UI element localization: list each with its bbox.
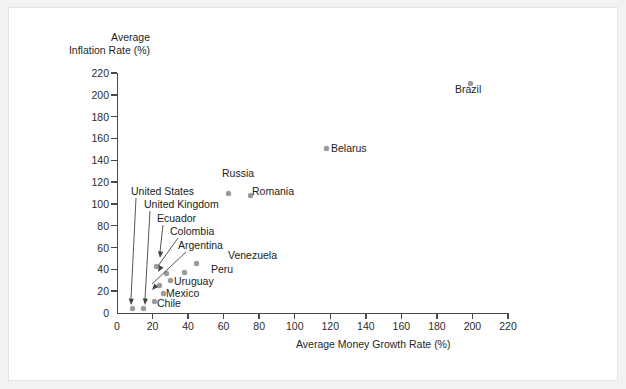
data-point[interactable] (194, 261, 199, 266)
leader-arrowhead (129, 298, 134, 305)
y-tick-mark (111, 94, 117, 95)
x-tick-mark (330, 313, 331, 319)
point-label: Russia (222, 168, 254, 179)
y-tick-label: 60 (77, 243, 109, 253)
x-tick-mark (436, 313, 437, 319)
y-tick-label: 100 (77, 199, 109, 209)
x-tick-mark (472, 313, 473, 319)
x-tick-label: 100 (278, 320, 312, 332)
y-axis-title-line1: Average (60, 31, 150, 44)
y-tick-label: 20 (77, 286, 109, 296)
y-tick-mark (111, 160, 117, 161)
data-point[interactable] (130, 306, 135, 311)
leader-arrowhead (158, 251, 163, 258)
y-tick-label: 120 (77, 177, 109, 187)
y-tick-label-text: 80 (81, 221, 109, 231)
y-tick-label-text: 0 (81, 308, 109, 318)
y-tick-mark (111, 138, 117, 139)
point-label: Belarus (331, 143, 367, 154)
y-tick-label-text: 220 (81, 68, 109, 78)
x-tick-label: 120 (313, 320, 347, 332)
data-point[interactable] (168, 278, 173, 283)
data-point[interactable] (154, 264, 159, 269)
data-point[interactable] (161, 291, 166, 296)
x-tick-label: 80 (242, 320, 276, 332)
point-label: United States (131, 186, 194, 197)
y-tick-label-text: 140 (81, 155, 109, 165)
leader-arrowhead (143, 298, 148, 305)
y-tick-label: 180 (77, 112, 109, 122)
point-label: Romania (252, 186, 294, 197)
data-point[interactable] (157, 283, 162, 288)
x-tick-label: 220 (491, 320, 525, 332)
scatter-plot: Average Inflation Rate (%) 0204060801001… (0, 0, 626, 389)
point-label: Uruguay (174, 276, 214, 287)
y-axis-title: Average Inflation Rate (%) (60, 31, 150, 57)
y-tick-label-text: 160 (81, 133, 109, 143)
leader-line (158, 238, 178, 266)
x-axis-line (117, 313, 509, 314)
x-tick-label: 20 (136, 320, 170, 332)
data-point[interactable] (226, 191, 231, 196)
y-tick-mark (111, 225, 117, 226)
y-tick-mark (111, 247, 117, 248)
y-tick-mark (111, 72, 117, 73)
x-tick-label: 180 (420, 320, 454, 332)
leader-line (131, 198, 136, 299)
y-tick-label: 220 (77, 68, 109, 78)
y-tick-label: 200 (77, 90, 109, 100)
x-tick-label: 140 (349, 320, 383, 332)
point-label: Ecuador (157, 213, 196, 224)
x-tick-label: 60 (207, 320, 241, 332)
y-tick-label-text: 200 (81, 90, 109, 100)
x-axis-title: Average Money Growth Rate (%) (296, 338, 450, 350)
x-tick-mark (507, 313, 508, 319)
x-tick-mark (258, 313, 259, 319)
x-tick-label: 0 (100, 320, 134, 332)
y-axis-line (117, 73, 118, 314)
y-tick-label: 40 (77, 264, 109, 274)
x-tick-label: 160 (384, 320, 418, 332)
x-tick-mark (401, 313, 402, 319)
y-tick-label-text: 120 (81, 177, 109, 187)
x-tick-label: 40 (171, 320, 205, 332)
leader-line (160, 225, 163, 252)
leader-line (145, 211, 150, 299)
data-point[interactable] (164, 271, 169, 276)
y-tick-mark (111, 290, 117, 291)
y-tick-label-text: 100 (81, 199, 109, 209)
y-tick-label: 0 (77, 308, 109, 318)
point-label: Argentina (178, 240, 223, 251)
y-tick-label: 80 (77, 221, 109, 231)
x-tick-mark (294, 313, 295, 319)
point-label: Chile (157, 298, 181, 309)
y-tick-mark (111, 203, 117, 204)
y-tick-mark (111, 116, 117, 117)
x-tick-label: 200 (455, 320, 489, 332)
y-tick-mark (111, 269, 117, 270)
y-tick-label: 140 (77, 155, 109, 165)
y-tick-mark (111, 181, 117, 182)
y-tick-label-text: 40 (81, 264, 109, 274)
data-point[interactable] (324, 146, 329, 151)
data-point[interactable] (141, 306, 146, 311)
leader-arrowhead (158, 265, 164, 272)
chart-page: Average Inflation Rate (%) 0204060801001… (0, 0, 626, 389)
y-axis-title-line2: Inflation Rate (%) (60, 44, 150, 57)
x-tick-mark (223, 313, 224, 319)
point-label: Venezuela (228, 250, 277, 261)
y-tick-label: 160 (77, 133, 109, 143)
y-tick-label-text: 60 (81, 243, 109, 253)
x-tick-mark (365, 313, 366, 319)
y-tick-label-text: 180 (81, 112, 109, 122)
point-label: Brazil (455, 84, 481, 95)
point-label: Peru (211, 264, 233, 275)
x-tick-mark (152, 313, 153, 319)
x-tick-mark (187, 313, 188, 319)
point-label: United Kingdom (144, 199, 219, 210)
y-tick-label-text: 20 (81, 286, 109, 296)
point-label: Colombia (170, 226, 214, 237)
